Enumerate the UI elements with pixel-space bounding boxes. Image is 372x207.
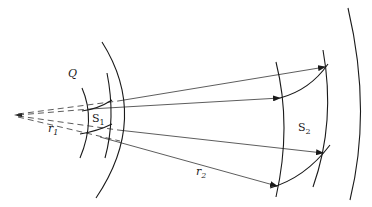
wavefront-arc-inner-1 [80, 88, 89, 158]
label-s1: S1 [92, 112, 105, 127]
dashed-rays [18, 101, 120, 141]
wavefront-diagram: Q S1 r1 S2 r2 [0, 0, 372, 207]
label-r1: r1 [48, 122, 58, 137]
wavefront-arc-inner-2 [105, 73, 111, 158]
wavefront-arc-s2-right [313, 50, 328, 187]
s1-patch-bottom [80, 124, 112, 134]
label-s2: S2 [298, 121, 311, 136]
wavefront-arc-outer [348, 8, 361, 200]
label-r2: r2 [196, 165, 206, 180]
arrow-rays [90, 67, 325, 186]
s2-patch-top [280, 64, 328, 98]
wavefront-arc-s2-left [276, 62, 284, 197]
label-q: Q [68, 67, 77, 80]
